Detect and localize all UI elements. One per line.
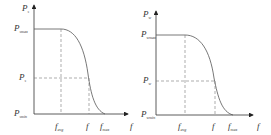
diagram-canvas: Ps Psmax Ps Psmin favg f fmax f Pw Pwmax… <box>0 0 271 135</box>
left-y-axis-label: Ps <box>21 3 30 14</box>
left-curve <box>34 29 105 114</box>
left-xmid-label: f <box>86 121 90 131</box>
right-y-axis-label: Pw <box>142 9 152 20</box>
right-plot: Pw Pwmax Pw Pwmin favg f fmax f <box>140 9 261 132</box>
right-xavg-label: favg <box>178 121 186 132</box>
right-ymax-label: Pwmax <box>140 29 156 40</box>
right-ymid-label: Pw <box>142 75 152 86</box>
left-xavg-label: favg <box>55 121 63 132</box>
left-plot: Ps Psmax Ps Psmin favg f fmax f <box>13 3 134 132</box>
right-x-axis-label: f <box>257 121 261 131</box>
left-ymid-label: Ps <box>18 72 27 83</box>
right-xmax-label: fmax <box>228 121 237 132</box>
left-x-axis-label: f <box>130 121 134 131</box>
right-xmid-label: f <box>212 121 216 131</box>
left-ymin-label: Psmin <box>13 108 27 119</box>
left-xmax-label: fmax <box>100 121 109 132</box>
right-curve <box>156 35 233 115</box>
right-ymin-label: Pwmin <box>140 109 155 120</box>
left-ymax-label: Psmax <box>13 23 28 34</box>
